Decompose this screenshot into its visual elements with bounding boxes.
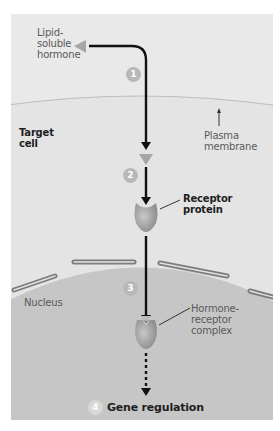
label-receptor-protein: Receptor protein [183,193,232,215]
step-badge-3: 3 [123,281,138,296]
label-hormone: Lipid- soluble hormone [37,27,80,60]
label-target-cell: Target cell [19,127,54,149]
hormone-signaling-diagram: Lipid- soluble hormone 1 Target cell Pla… [0,0,280,431]
label-hormone-receptor-complex: Hormone- receptor complex [191,303,239,336]
step-badge-2: 2 [123,168,138,183]
step-badge-4: 4 [88,400,103,415]
label-plasma-membrane: Plasma membrane [204,130,257,152]
label-gene-regulation: Gene regulation [107,402,204,413]
label-nucleus: Nucleus [24,297,62,308]
step-badge-1: 1 [126,67,141,82]
diagram-canvas [0,0,280,431]
